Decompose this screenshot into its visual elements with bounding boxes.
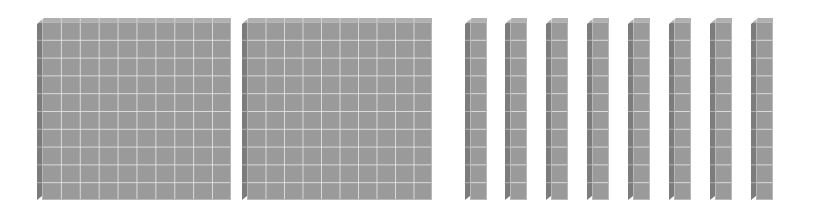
flat-front-face [42,22,231,200]
hundred-flat-1 [37,18,231,200]
ten-rod-5 [628,18,650,200]
rod-front-face [633,22,650,200]
rod-front-face [551,22,568,200]
rod-front-face [674,22,691,200]
flat-front-face [247,22,432,200]
rod-front-face [470,22,487,200]
ten-rod-8 [751,18,773,200]
ten-rod-3 [546,18,568,200]
rod-front-face [715,22,732,200]
ten-rod-6 [669,18,691,200]
rod-front-face [592,22,609,200]
ten-rod-2 [505,18,527,200]
hundred-flat-2 [242,18,432,200]
ten-rod-4 [587,18,609,200]
ten-rod-7 [710,18,732,200]
rod-front-face [756,22,773,200]
ten-rod-1 [465,18,487,200]
rod-front-face [510,22,527,200]
